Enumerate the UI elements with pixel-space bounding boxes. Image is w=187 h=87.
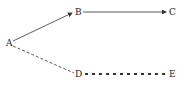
edge-a-d: [13, 46, 74, 73]
diagram-canvas: [0, 0, 187, 87]
node-d: D: [75, 69, 82, 79]
node-c: C: [169, 7, 176, 17]
node-b: B: [75, 7, 82, 17]
node-a: A: [6, 38, 13, 48]
node-e: E: [169, 69, 176, 79]
edge-a-b: [13, 13, 72, 41]
